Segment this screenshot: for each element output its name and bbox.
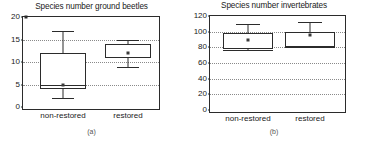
x-tick-label: restored bbox=[113, 111, 142, 121]
whisker-cap-upper bbox=[236, 24, 260, 25]
y-tick-label: 120 bbox=[194, 12, 207, 20]
whisker-lower bbox=[128, 58, 129, 67]
panel-invertebrates: Species number invertebrates 02040608010… bbox=[183, 0, 365, 143]
whisker-cap-upper bbox=[52, 31, 74, 32]
whisker-upper bbox=[63, 31, 64, 54]
y-tick-label: 0 bbox=[203, 106, 207, 114]
x-tick-label: non-restored bbox=[40, 111, 85, 121]
chart-title-a: Species number ground beetles bbox=[0, 2, 183, 12]
y-tick-mark bbox=[208, 16, 210, 17]
stray-speck-marker bbox=[25, 16, 28, 19]
box-iqr bbox=[223, 33, 273, 49]
whisker-cap-upper bbox=[298, 22, 322, 23]
y-tick-mark bbox=[208, 31, 210, 32]
box-plot: restored bbox=[105, 17, 151, 109]
box-plot: non-restored bbox=[223, 16, 273, 112]
x-tick-label: restored bbox=[295, 114, 324, 124]
y-tick-label: 40 bbox=[198, 75, 207, 83]
whisker-upper bbox=[310, 22, 311, 31]
y-tick-label: 5 bbox=[16, 81, 20, 89]
y-tick-mark bbox=[208, 47, 210, 48]
mean-marker bbox=[309, 33, 312, 36]
y-tick-mark bbox=[21, 62, 23, 63]
y-tick-mark bbox=[208, 63, 210, 64]
y-tick-mark bbox=[208, 110, 210, 111]
median-line bbox=[105, 57, 151, 58]
box-plot: restored bbox=[285, 16, 335, 112]
chart-title-b: Species number invertebrates bbox=[183, 1, 365, 11]
y-tick-label: 15 bbox=[11, 36, 20, 44]
median-line bbox=[223, 50, 273, 51]
mean-marker bbox=[247, 38, 250, 41]
plot-area-b: 020406080100120non-restoredrestored bbox=[209, 15, 346, 113]
subcaption-b: (b) bbox=[183, 128, 365, 136]
x-tick-label: non-restored bbox=[225, 114, 270, 124]
median-line bbox=[285, 47, 335, 48]
y-tick-label: 0 bbox=[16, 103, 20, 111]
box-plot: non-restored bbox=[40, 17, 86, 109]
panel-ground-beetles: Species number ground beetles 05101520no… bbox=[0, 0, 183, 143]
y-tick-label: 20 bbox=[11, 13, 20, 21]
y-tick-mark bbox=[21, 17, 23, 18]
y-tick-mark bbox=[208, 94, 210, 95]
whisker-cap-lower bbox=[117, 67, 139, 68]
whisker-cap-lower bbox=[52, 98, 74, 99]
y-tick-mark bbox=[21, 107, 23, 108]
plot-area-a: 05101520non-restoredrestored bbox=[22, 16, 160, 110]
y-tick-mark bbox=[208, 78, 210, 79]
y-tick-label: 10 bbox=[11, 58, 20, 66]
y-tick-mark bbox=[21, 84, 23, 85]
whisker-upper bbox=[248, 24, 249, 33]
subcaption-a: (a) bbox=[0, 128, 183, 136]
whisker-cap-upper bbox=[117, 40, 139, 41]
boxplot-figure: Species number ground beetles 05101520no… bbox=[0, 0, 365, 143]
y-tick-label: 60 bbox=[198, 59, 207, 67]
y-tick-label: 80 bbox=[198, 43, 207, 51]
y-tick-mark bbox=[21, 39, 23, 40]
y-tick-label: 20 bbox=[198, 90, 207, 98]
y-tick-label: 100 bbox=[194, 28, 207, 36]
mean-marker bbox=[62, 83, 65, 86]
whisker-lower bbox=[63, 89, 64, 98]
mean-marker bbox=[127, 52, 130, 55]
